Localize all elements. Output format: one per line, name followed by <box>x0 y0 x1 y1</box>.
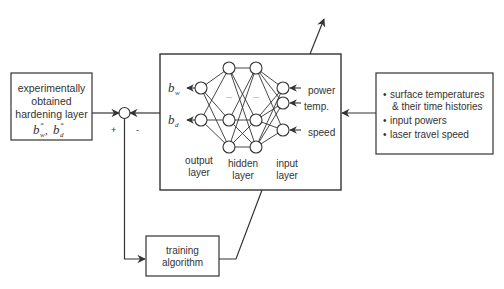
svg-text:b: b <box>168 112 175 127</box>
hidden-layer-label-1: hidden <box>228 158 258 169</box>
hidden-layer-label-2: layer <box>232 170 254 181</box>
svg-text:d: d <box>175 121 179 129</box>
input-layer-label-2: layer <box>276 170 298 181</box>
svg-text:b: b <box>53 122 60 137</box>
output-node-bw <box>195 82 207 94</box>
svg-text:w: w <box>175 89 180 97</box>
training-box-line-2: algorithm <box>162 257 203 268</box>
hidden2-ellipsis: ... <box>253 92 259 99</box>
input-layer-label-1: input <box>276 158 298 169</box>
hidden2-node-bottom <box>250 141 262 153</box>
hardening-layer-box: experimentally obtained hardening layer … <box>11 73 92 140</box>
hidden2-node-top <box>250 62 262 74</box>
hidden2-node-mid <box>250 114 262 126</box>
hidden1-node-top <box>223 62 235 74</box>
error-to-training-arrow <box>125 119 146 260</box>
input-item-3: laser travel speed <box>390 129 469 140</box>
measurement-inputs-box: • surface temperatures & their time hist… <box>376 73 493 154</box>
svg-text:b: b <box>168 80 175 95</box>
input-label-temp: temp. <box>304 101 329 112</box>
bullet-1: • <box>383 89 387 100</box>
hidden1-ellipsis: ... <box>226 92 232 99</box>
hardening-box-line-2: obtained <box>31 95 71 107</box>
input-item-2: input powers <box>390 115 447 126</box>
output-node-bd <box>195 114 207 126</box>
hardening-box-line-3: hardening layer <box>15 108 88 120</box>
output-layer-label-2: layer <box>188 167 210 178</box>
training-box-line-1: training <box>166 245 199 256</box>
output-layer-label-1: output <box>185 155 213 166</box>
bullet-3: • <box>383 129 387 140</box>
hidden1-node-mid <box>223 114 235 126</box>
svg-text:,: , <box>45 124 48 136</box>
svg-text:d: d <box>60 131 64 139</box>
input-label-power: power <box>308 85 336 96</box>
hardening-box-line-1: experimentally <box>18 82 86 94</box>
svg-text:*: * <box>60 121 64 129</box>
svg-text:*: * <box>40 121 44 129</box>
input-item-1-line-2: & their time histories <box>392 101 483 112</box>
plus-sign: + <box>111 125 116 135</box>
weight-update-arrow-upper <box>310 19 324 54</box>
input-node-power <box>277 82 289 94</box>
neural-network-training-diagram: experimentally obtained hardening layer … <box>0 0 504 289</box>
hidden1-node-bottom <box>223 141 235 153</box>
input-node-speed <box>277 124 289 136</box>
bullet-2: • <box>383 115 387 126</box>
neural-network-box: ... ... b w b d power temp. speed output… <box>160 54 341 190</box>
minus-sign: - <box>136 125 139 135</box>
input-node-temp <box>277 97 289 109</box>
input-item-1-line-1: surface temperatures <box>390 89 485 100</box>
training-algorithm-box: training algorithm <box>146 236 219 276</box>
input-label-speed: speed <box>308 127 335 138</box>
weight-update-line-lower <box>219 190 262 259</box>
svg-text:b: b <box>33 122 40 137</box>
